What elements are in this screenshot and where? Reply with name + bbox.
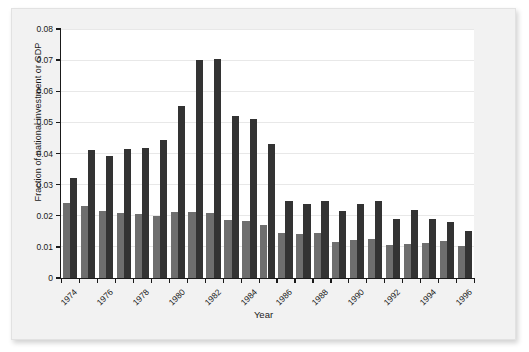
- x-axis-tick-mark: [97, 278, 98, 283]
- x-axis-tick-mark: [402, 278, 403, 283]
- bar: [268, 144, 275, 278]
- bar: [124, 149, 131, 278]
- y-axis-tick-label: 0.06: [19, 87, 53, 96]
- bar: [368, 239, 375, 278]
- bar: [411, 210, 418, 278]
- x-axis-tick-mark: [187, 278, 188, 283]
- y-axis-tick-mark: [56, 215, 61, 216]
- x-axis-tick-mark: [420, 278, 421, 283]
- bar: [142, 148, 149, 278]
- figure-panel: Fraction of national investment or GDP Y…: [11, 8, 516, 340]
- bar: [135, 214, 142, 278]
- x-axis-tick-mark: [223, 278, 224, 283]
- x-axis-tick-mark: [169, 278, 170, 283]
- x-axis-tick-mark: [205, 278, 206, 283]
- bar: [196, 60, 203, 278]
- y-axis-tick-label: 0.02: [19, 212, 53, 221]
- gridline: [61, 122, 474, 123]
- bar: [375, 201, 382, 278]
- bar: [63, 203, 70, 278]
- bar: [206, 213, 213, 278]
- bar: [242, 221, 249, 278]
- bar: [70, 178, 77, 278]
- bar: [232, 116, 239, 278]
- bar: [250, 119, 257, 278]
- bar: [303, 204, 310, 278]
- bar: [171, 212, 178, 278]
- x-axis-tick-mark: [474, 278, 475, 283]
- x-axis-tick-mark: [294, 278, 295, 283]
- x-axis-tick-mark: [456, 278, 457, 283]
- bar: [393, 219, 400, 278]
- x-axis-tick-mark: [259, 278, 260, 283]
- x-axis-tick-mark: [276, 278, 277, 283]
- x-axis-tick-mark: [366, 278, 367, 283]
- bar: [386, 245, 393, 278]
- x-axis-tick-mark: [330, 278, 331, 283]
- bar: [447, 222, 454, 278]
- bar: [458, 246, 465, 278]
- bar: [357, 204, 364, 278]
- gridline: [61, 29, 474, 30]
- x-axis-tick-mark: [151, 278, 152, 283]
- bar: [260, 225, 267, 278]
- y-axis-tick-mark: [56, 59, 61, 60]
- y-axis-tick-mark: [56, 122, 61, 123]
- y-axis-tick-label: 0.08: [19, 25, 53, 34]
- bar: [422, 243, 429, 278]
- y-axis-tick-label: 0.07: [19, 56, 53, 65]
- x-axis-tick-mark: [79, 278, 80, 283]
- y-axis-tick-mark: [56, 246, 61, 247]
- bar: [153, 216, 160, 278]
- x-axis-tick-mark: [241, 278, 242, 283]
- x-axis-title: Year: [12, 309, 515, 320]
- x-axis-tick-mark: [133, 278, 134, 283]
- gridline: [61, 60, 474, 61]
- bar: [278, 233, 285, 278]
- plot-area: 00.010.020.030.040.050.060.070.081974197…: [60, 29, 474, 279]
- y-axis-tick-mark: [56, 91, 61, 92]
- x-axis-tick-mark: [115, 278, 116, 283]
- bar: [224, 220, 231, 279]
- bar: [214, 59, 221, 278]
- y-axis-tick-label: 0.04: [19, 150, 53, 159]
- x-axis-tick-mark: [438, 278, 439, 283]
- bar: [332, 242, 339, 278]
- bar: [429, 219, 436, 278]
- bar: [99, 211, 106, 278]
- bar: [188, 212, 195, 278]
- gridline: [61, 91, 474, 92]
- y-axis-tick-mark: [56, 184, 61, 185]
- y-axis-tick-label: 0.03: [19, 181, 53, 190]
- bar: [350, 240, 357, 278]
- y-axis-tick-mark: [56, 153, 61, 154]
- bar: [106, 156, 113, 278]
- bar: [178, 106, 185, 278]
- bar: [440, 241, 447, 278]
- x-axis-tick-mark: [348, 278, 349, 283]
- x-axis-tick-mark: [312, 278, 313, 283]
- bar: [285, 201, 292, 278]
- bar: [404, 244, 411, 278]
- bar: [465, 231, 472, 278]
- bar: [117, 213, 124, 278]
- bar: [339, 211, 346, 278]
- bar: [321, 201, 328, 278]
- x-axis-tick-mark: [384, 278, 385, 283]
- bar: [296, 234, 303, 278]
- y-axis-tick-label: 0: [19, 274, 53, 283]
- y-axis-tick-label: 0.01: [19, 243, 53, 252]
- bar: [160, 140, 167, 278]
- bar: [314, 233, 321, 278]
- bar: [81, 206, 88, 278]
- y-axis-tick-label: 0.05: [19, 118, 53, 127]
- y-axis-tick-mark: [56, 28, 61, 29]
- x-axis-tick-mark: [61, 278, 62, 283]
- bar: [88, 150, 95, 278]
